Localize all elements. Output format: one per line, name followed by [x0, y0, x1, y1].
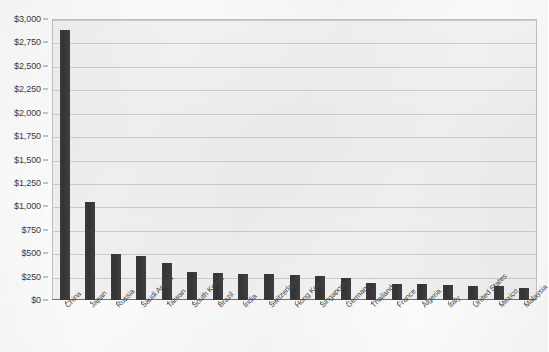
y-tick-mark [43, 300, 48, 301]
y-tick-label: $2,250 [14, 84, 41, 94]
y-tick-mark [43, 19, 48, 20]
y-tick-mark [43, 65, 48, 66]
y-tick-mark [43, 182, 48, 183]
y-tick-label: $2,750 [14, 37, 41, 47]
bar [60, 30, 70, 300]
y-tick-label: $2,000 [14, 108, 41, 118]
y-tick-label: $1,000 [14, 201, 41, 211]
y-tick-label: $0 [31, 295, 41, 305]
y-axis: $0$250$500$750$1,000$1,250$1,500$1,750$2… [0, 19, 48, 300]
y-tick-mark [43, 112, 48, 113]
bar [136, 256, 146, 300]
y-tick-mark [43, 253, 48, 254]
y-tick-mark [43, 276, 48, 277]
y-tick-label: $2,500 [14, 61, 41, 71]
y-tick-label: $250 [21, 272, 41, 282]
y-tick-mark [43, 159, 48, 160]
y-tick-label: $500 [21, 248, 41, 258]
y-tick-mark [43, 206, 48, 207]
bar [111, 254, 121, 300]
y-tick-mark [43, 136, 48, 137]
y-tick-label: $1,750 [14, 131, 41, 141]
y-tick-mark [43, 42, 48, 43]
bars-layer [52, 19, 537, 300]
x-axis: ChinaJapanRussiaSaudi ArabiaTaiwanSouth … [52, 301, 537, 352]
y-tick-mark [43, 89, 48, 90]
y-tick-label: $1,500 [14, 155, 41, 165]
y-tick-label: $1,250 [14, 178, 41, 188]
y-tick-mark [43, 229, 48, 230]
y-tick-label: $3,000 [14, 14, 41, 24]
y-tick-label: $750 [21, 225, 41, 235]
bar [85, 202, 95, 300]
